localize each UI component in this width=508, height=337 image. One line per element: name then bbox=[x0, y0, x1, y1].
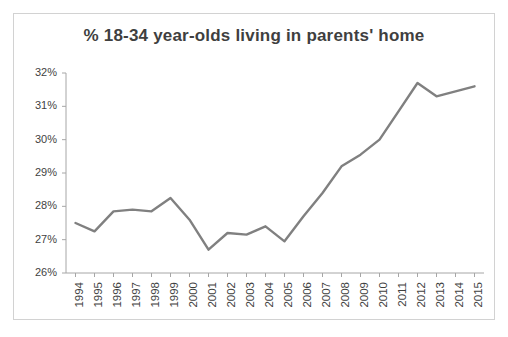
y-tick-label: 28% bbox=[35, 199, 57, 211]
x-tick-label: 2008 bbox=[339, 282, 351, 308]
x-tick-label: 2004 bbox=[263, 281, 275, 307]
chart-container: % 18-34 year-olds living in parents' hom… bbox=[13, 13, 495, 320]
y-tick-label: 27% bbox=[35, 233, 57, 245]
x-tick-label: 1999 bbox=[168, 282, 180, 308]
y-tick-label: 31% bbox=[35, 99, 57, 111]
y-axis-group: 26%27%28%29%30%31%32% bbox=[35, 66, 66, 278]
data-series-line bbox=[76, 83, 475, 250]
x-tick-label: 2011 bbox=[396, 282, 408, 307]
x-tick-label: 2012 bbox=[415, 282, 427, 308]
line-chart-plot: 26%27%28%29%30%31%32% 199419951996199719… bbox=[14, 14, 496, 321]
y-tick-label: 32% bbox=[35, 66, 57, 78]
x-tick-label: 1997 bbox=[130, 282, 142, 308]
x-tick-label: 2000 bbox=[187, 282, 199, 308]
x-axis-group: 1994199519961997199819992000200120022003… bbox=[66, 273, 484, 308]
x-tick-label: 2009 bbox=[358, 282, 370, 308]
x-tick-label: 1994 bbox=[73, 281, 85, 307]
x-tick-label: 2002 bbox=[225, 282, 237, 308]
x-tick-label: 2006 bbox=[301, 282, 313, 308]
x-tick-label: 2013 bbox=[434, 282, 446, 308]
y-tick-label: 29% bbox=[35, 166, 57, 178]
x-tick-group: 1994199519961997199819992000200120022003… bbox=[73, 273, 484, 308]
x-tick-label: 2007 bbox=[320, 282, 332, 308]
x-tick-label: 2005 bbox=[282, 282, 294, 308]
x-tick-label: 1998 bbox=[149, 282, 161, 308]
y-tick-label: 26% bbox=[35, 266, 57, 278]
x-tick-label: 2003 bbox=[244, 282, 256, 308]
x-tick-label: 2014 bbox=[453, 281, 465, 307]
x-tick-label: 2001 bbox=[206, 282, 218, 308]
y-tick-label: 30% bbox=[35, 133, 57, 145]
y-tick-group: 26%27%28%29%30%31%32% bbox=[35, 66, 66, 278]
x-tick-label: 1995 bbox=[92, 282, 104, 308]
x-tick-label: 1996 bbox=[111, 282, 123, 308]
x-tick-label: 2010 bbox=[377, 282, 389, 308]
x-tick-label: 2015 bbox=[472, 282, 484, 308]
